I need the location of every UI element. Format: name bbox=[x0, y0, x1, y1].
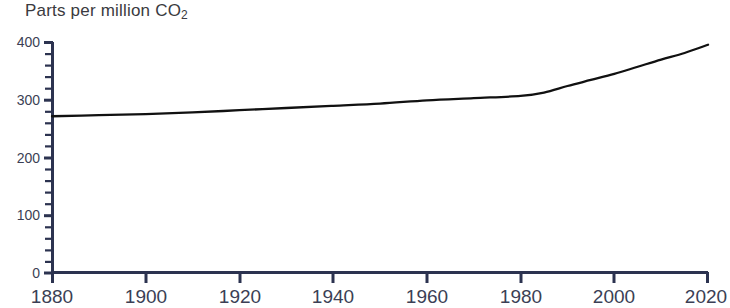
x-tick-label-1940: 1940 bbox=[293, 286, 373, 308]
y-tick-label-300: 300 bbox=[0, 92, 40, 108]
y-tick-label-0: 0 bbox=[0, 265, 40, 281]
axes bbox=[52, 42, 708, 274]
x-tick-label-2020: 2020 bbox=[666, 286, 730, 308]
x-tick-label-1980: 1980 bbox=[481, 286, 561, 308]
x-tick-label-1900: 1900 bbox=[106, 286, 186, 308]
plot-area bbox=[0, 0, 730, 308]
x-tick-label-2000: 2000 bbox=[574, 286, 654, 308]
co2-line-chart: Parts per million CO2 bbox=[0, 0, 730, 308]
x-tick-label-1920: 1920 bbox=[200, 286, 280, 308]
y-tick-label-400: 400 bbox=[0, 34, 40, 50]
x-tick-label-1960: 1960 bbox=[387, 286, 467, 308]
co2-data-line bbox=[52, 45, 708, 117]
y-tick-label-200: 200 bbox=[0, 150, 40, 166]
x-tick-label-1880: 1880 bbox=[12, 286, 92, 308]
y-tick-label-100: 100 bbox=[0, 207, 40, 223]
